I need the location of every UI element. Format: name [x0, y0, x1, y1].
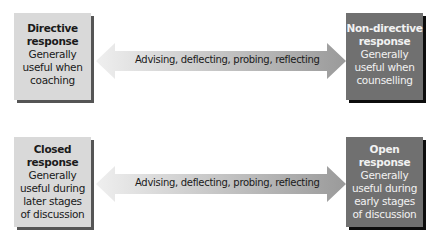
box-title: Directive	[14, 22, 91, 35]
non-directive-response-box: Non-directive response Generally useful …	[346, 13, 423, 100]
box-desc: useful when	[14, 61, 91, 74]
box-desc: counselling	[346, 74, 423, 87]
box-desc: coaching	[14, 74, 91, 87]
box-desc: Generally	[14, 48, 91, 61]
box-desc: useful during	[346, 182, 423, 195]
directive-response-box: Directive response Generally useful when…	[14, 13, 91, 100]
open-response-box: Open response Generally useful during ea…	[346, 137, 423, 227]
box-title: Open	[346, 143, 423, 156]
box-desc: of discussion	[346, 208, 423, 221]
box-desc: useful during	[14, 182, 91, 195]
box-title: response	[14, 35, 91, 48]
arrow-label: Advising, deflecting, probing, reflectin…	[135, 177, 307, 188]
box-title: Closed	[14, 143, 91, 156]
closed-response-box: Closed response Generally useful during …	[14, 137, 91, 227]
arrow-label: Advising, deflecting, probing, reflectin…	[135, 54, 307, 65]
box-desc: early stages	[346, 195, 423, 208]
box-desc: Generally	[346, 169, 423, 182]
box-desc: useful when	[346, 61, 423, 74]
box-title: Non-directive	[346, 22, 423, 35]
box-desc: later stages	[14, 195, 91, 208]
box-desc: Generally	[346, 48, 423, 61]
box-title: response	[14, 156, 91, 169]
box-desc: Generally	[14, 169, 91, 182]
box-desc: of discussion	[14, 208, 91, 221]
box-title: response	[346, 156, 423, 169]
box-title: response	[346, 35, 423, 48]
